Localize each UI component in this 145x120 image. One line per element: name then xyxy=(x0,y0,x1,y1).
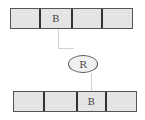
connector-top-vertical xyxy=(58,29,59,49)
register-node: R xyxy=(68,55,98,73)
bottom-cell-0 xyxy=(14,92,45,111)
bottom-cell-3 xyxy=(107,92,136,111)
connector-top-horizontal xyxy=(58,48,74,49)
bottom-cell-1 xyxy=(45,92,78,111)
connector-bottom-vertical xyxy=(91,73,92,91)
top-array: B xyxy=(10,8,133,29)
bottom-cell-2: B xyxy=(78,92,107,111)
top-cell-2 xyxy=(73,9,104,28)
top-cell-1: B xyxy=(41,9,73,28)
top-cell-0 xyxy=(11,9,41,28)
top-cell-3 xyxy=(103,9,132,28)
bottom-array: B xyxy=(13,91,137,112)
